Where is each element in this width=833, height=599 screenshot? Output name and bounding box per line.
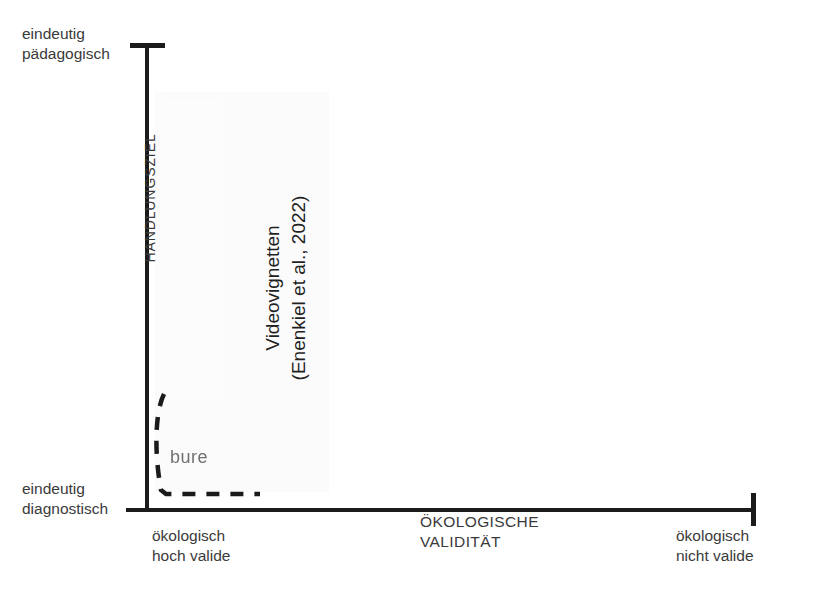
diagram-canvas: eindeutig pädagogisch eindeutig diagnost… <box>0 0 833 599</box>
x-axis-right-tick <box>751 493 756 526</box>
faded-item-text: bure <box>170 447 208 468</box>
y-axis-title: HANDLUNGSZIEL <box>142 108 158 288</box>
x-axis-right-label: ökologisch nicht valide <box>676 526 754 566</box>
dashed-region-path <box>156 394 260 494</box>
y-axis-bottom-label: eindeutig diagnostisch <box>22 479 108 519</box>
dashed-region-outline <box>152 390 260 494</box>
y-axis-top-label: eindeutig pädagogisch <box>22 24 110 64</box>
x-axis-title: ÖKOLOGISCHE VALIDITÄT <box>420 512 539 552</box>
scan-shading-band-inner <box>162 100 222 400</box>
y-axis-top-tick <box>130 43 165 48</box>
x-axis-left-label: ökologisch hoch valide <box>152 526 230 566</box>
